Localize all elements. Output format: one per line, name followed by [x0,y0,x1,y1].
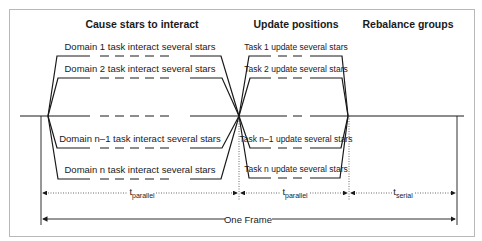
task-n-update-label: Task n update several stars [244,164,347,174]
task-1-update-label: Task 1 update several stars [244,42,347,52]
domain-1-task-label: Domain 1 task interact several stars [64,41,215,52]
domain-2-task-label: Domain 2 task interact several stars [64,63,215,74]
t-serial-label: tserial [393,186,413,199]
domain-n-task-label: Domain n task interact several stars [64,164,215,175]
t-parallel-1-label: tparallel [129,186,155,200]
frame-timing-diagram: Cause stars to interact Update positions… [0,0,482,241]
phase2-fan [239,56,348,178]
heading-rebalance-groups: Rebalance groups [362,18,453,30]
one-frame-label: One Frame [224,214,272,225]
heading-cause-stars-to-interact: Cause stars to interact [85,18,199,30]
task-2-update-label: Task 2 update several stars [244,64,347,74]
domain-n-minus-1-task-label: Domain n–1 task interact several stars [59,133,221,144]
heading-update-positions: Update positions [253,18,338,30]
phase1-fan [48,56,239,179]
task-n-minus-1-update-label: Task n–1 update several stars [240,134,353,144]
t-parallel-2-label: tparallel [282,186,308,200]
